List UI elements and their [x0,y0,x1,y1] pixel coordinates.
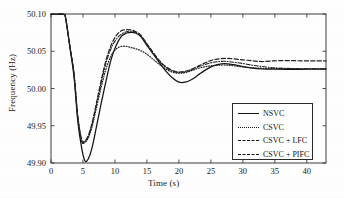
frequency-response-chart: Frequency (Hz) Time (s) 49.9049.9550.005… [0,0,344,198]
legend-line-sample [238,140,259,141]
legend-item-label: NSVC [263,107,284,120]
x-tick-label: 10 [103,166,127,176]
x-axis-label: Time (s) [148,178,179,188]
legend-item[interactable]: CSVC + PIFC [233,148,312,162]
x-tick-label: 30 [231,166,255,176]
x-tick-label: 0 [39,166,63,176]
x-tick-label: 40 [295,166,319,176]
legend-item[interactable]: NSVC [233,107,312,121]
legend-item[interactable]: CSVC [233,121,312,135]
legend-item-label: CSVC + LFC [263,134,307,147]
legend-line-sample [238,113,259,114]
x-tick-label: 35 [263,166,287,176]
y-tick-label: 50.05 [12,46,46,56]
x-tick-label: 20 [167,166,191,176]
legend[interactable]: NSVCCSVCCSVC + LFCCSVC + PIFC [232,103,313,160]
x-tick-label: 15 [135,166,159,176]
y-tick-label: 50.00 [12,84,46,94]
legend-item-label: CSVC + PIFC [263,148,309,161]
x-tick-label: 25 [199,166,223,176]
legend-item-label: CSVC [263,121,284,134]
y-tick-label: 50.10 [12,9,46,19]
y-tick-label: 49.95 [12,121,46,131]
legend-item[interactable]: CSVC + LFC [233,134,312,148]
x-tick-label: 5 [71,166,95,176]
legend-line-sample [238,127,259,128]
legend-line-sample [238,154,259,155]
